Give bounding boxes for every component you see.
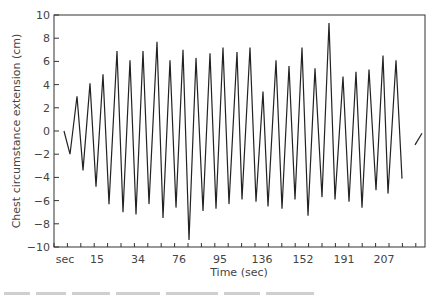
y-tick-label: −8 xyxy=(34,218,50,231)
x-tick-label: 15 xyxy=(90,253,104,266)
x-tick-label: 136 xyxy=(252,253,273,266)
figure-caption-fragment xyxy=(4,288,434,298)
y-tick-label: 0 xyxy=(43,125,50,138)
data-series xyxy=(64,23,422,240)
x-axis-ticks: sec15347695136152191207 xyxy=(54,243,416,266)
x-tick-label: 76 xyxy=(172,253,186,266)
y-tick-label: −4 xyxy=(34,171,50,184)
x-tick-label: 152 xyxy=(293,253,314,266)
y-axis-title: Chest circumstance extension (cm) xyxy=(10,34,23,229)
x-tick-label: 207 xyxy=(374,253,395,266)
x-axis-title: Time (sec) xyxy=(209,266,268,279)
y-tick-label: 10 xyxy=(36,9,50,22)
x-tick-label: 95 xyxy=(213,253,227,266)
y-tick-label: 6 xyxy=(43,55,50,68)
x-tick-label: 34 xyxy=(131,253,145,266)
x-tick-label: 191 xyxy=(334,253,355,266)
y-tick-label: 2 xyxy=(43,102,50,115)
series-line xyxy=(415,133,422,145)
y-tick-label: 4 xyxy=(43,79,50,92)
y-tick-label: −10 xyxy=(27,241,50,254)
x-tick-label: sec xyxy=(56,253,75,266)
y-tick-label: 8 xyxy=(43,32,50,45)
y-tick-label: −6 xyxy=(34,195,50,208)
series-line xyxy=(64,23,402,240)
y-tick-label: −2 xyxy=(34,148,50,161)
